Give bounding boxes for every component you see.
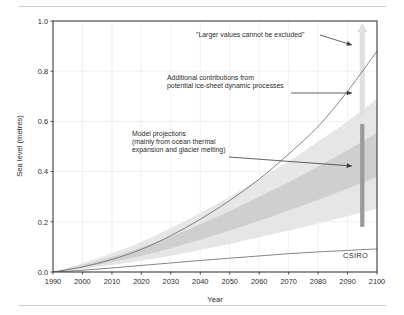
sea-level-chart: 1990200020102020203020402050206020702080… <box>0 0 404 315</box>
x-tick-label: 1990 <box>45 277 61 286</box>
y-tick-label: 0.0 <box>38 268 48 277</box>
x-tick-label: 2030 <box>163 277 179 286</box>
x-tick-label: 2070 <box>280 277 296 286</box>
sea-level-projection-figure: 1990200020102020203020402050206020702080… <box>0 0 404 315</box>
annotation-text: Model projections <box>132 130 187 138</box>
y-tick-label: 0.6 <box>38 117 48 126</box>
y-tick-label: 0.2 <box>38 218 48 227</box>
page-rule-bottom <box>18 305 386 306</box>
page-rule-top <box>18 6 386 7</box>
projection-range-bar <box>360 124 364 227</box>
x-tick-label: 2100 <box>369 277 385 286</box>
y-axis-title: Sea level (metres) <box>15 115 24 177</box>
annotation-text: "Larger values cannot be excluded" <box>196 31 305 39</box>
chart-credit: CSIRO <box>343 251 368 260</box>
y-axis-tick-labels: 0.00.20.40.60.81.0 <box>38 17 48 277</box>
x-tick-label: 2040 <box>192 277 208 286</box>
x-tick-label: 2050 <box>222 277 238 286</box>
x-tick-label: 2010 <box>104 277 120 286</box>
annotation-text: potential ice-sheet dynamic processes <box>167 82 284 90</box>
annotation-text: expansion and glacier melting) <box>132 146 225 154</box>
x-tick-label: 2080 <box>310 277 326 286</box>
x-tick-label: 2090 <box>339 277 355 286</box>
annotation-text: Additional contributions from <box>167 74 254 81</box>
annotation-text: (mainly from ocean thermal <box>132 138 216 146</box>
x-axis-title: Year <box>207 295 223 304</box>
x-tick-label: 2060 <box>251 277 267 286</box>
y-tick-label: 0.4 <box>38 167 48 176</box>
y-tick-label: 1.0 <box>38 17 48 26</box>
x-tick-label: 2000 <box>74 277 90 286</box>
y-tick-label: 0.8 <box>38 67 48 76</box>
x-axis-tick-labels: 1990200020102020203020402050206020702080… <box>45 277 385 286</box>
x-tick-label: 2020 <box>133 277 149 286</box>
